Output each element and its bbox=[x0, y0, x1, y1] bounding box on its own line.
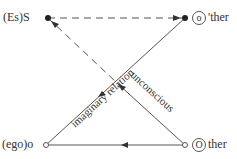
node-oprime-dot bbox=[182, 15, 188, 21]
node-o-label: (ego)o bbox=[2, 137, 33, 152]
node-O-dot bbox=[183, 143, 188, 148]
circled-o: o bbox=[192, 11, 206, 25]
circled-O: O bbox=[192, 138, 206, 152]
label-unconscious: unconscious bbox=[129, 69, 177, 115]
arrowhead-icon bbox=[173, 15, 181, 21]
node-s-label: (Es)S bbox=[3, 10, 30, 25]
node-O-label: Other bbox=[192, 137, 227, 152]
node-s-dot bbox=[45, 15, 51, 21]
node-oprime-label: o'ther bbox=[192, 10, 229, 25]
label-imaginary-relation: imaginary relation bbox=[68, 66, 136, 130]
node-o-dot bbox=[44, 143, 49, 148]
arrowhead-icon bbox=[121, 142, 128, 148]
edge-middle-to-s bbox=[48, 18, 116, 82]
